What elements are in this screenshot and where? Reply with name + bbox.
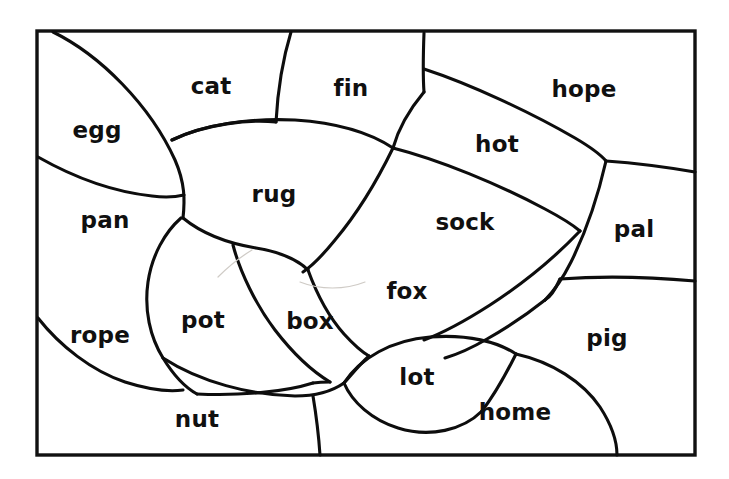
region-label-sock: sock <box>435 209 494 235</box>
region-label-pal: pal <box>614 216 654 242</box>
region-label-rug: rug <box>252 181 297 207</box>
worksheet-canvas: egg cat fin hope hot pan rug sock pal fo… <box>0 0 729 479</box>
region-label-fin: fin <box>334 75 369 101</box>
region-label-nut: nut <box>175 406 219 432</box>
region-label-hot: hot <box>475 131 519 157</box>
region-label-pot: pot <box>181 307 225 333</box>
boundary-box-nut-tail <box>313 382 330 383</box>
region-label-home: home <box>479 399 552 425</box>
region-label-egg: egg <box>72 117 121 143</box>
region-label-pig: pig <box>586 325 627 351</box>
region-label-box: box <box>286 308 334 334</box>
region-label-lot: lot <box>399 364 434 390</box>
region-label-cat: cat <box>191 73 232 99</box>
region-label-fox: fox <box>386 278 427 304</box>
region-label-hope: hope <box>551 76 616 102</box>
region-label-rope: rope <box>70 322 130 348</box>
region-label-pan: pan <box>81 207 130 233</box>
boundary-fin-hot-divider <box>423 33 424 92</box>
